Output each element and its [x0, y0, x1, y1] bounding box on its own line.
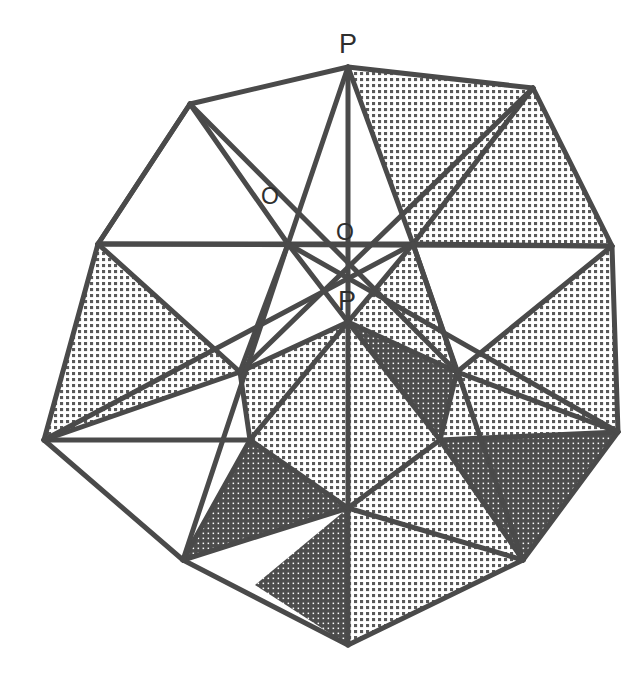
label-o-right: O — [336, 221, 354, 244]
polyhedron-edge — [98, 244, 612, 246]
label-p-top: P — [339, 31, 357, 58]
label-o-left: O — [261, 185, 279, 208]
stellated-polyhedron-figure — [0, 0, 642, 680]
label-p-center: P — [338, 288, 356, 315]
figure-canvas: POOP — [0, 0, 642, 680]
